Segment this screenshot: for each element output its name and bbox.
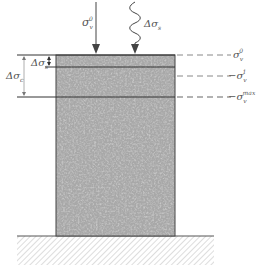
label-right-sigma-vmax: −σvmax bbox=[228, 89, 256, 104]
soil-column bbox=[56, 55, 175, 236]
label-right-sigma-v1: −σv1 bbox=[228, 68, 247, 83]
sigma-v0-arrow bbox=[92, 2, 100, 54]
label-right-sigma-v0: σv0 bbox=[233, 47, 244, 62]
label-delta-sigma-c-left: Δσc bbox=[5, 70, 24, 83]
label-sigma-v0-top: σv0 bbox=[82, 15, 94, 30]
diagram-canvas: σv0 Δσs Δσs Δσc σv0 −σv1 −σvmax bbox=[0, 0, 265, 269]
label-delta-sigma-s-top: Δσs bbox=[143, 18, 161, 31]
ground bbox=[17, 236, 214, 265]
delta-sigma-s-wavy-arrow bbox=[130, 2, 141, 54]
label-delta-sigma-s-left: Δσs bbox=[30, 57, 48, 70]
dashed-level-lines bbox=[177, 55, 231, 97]
